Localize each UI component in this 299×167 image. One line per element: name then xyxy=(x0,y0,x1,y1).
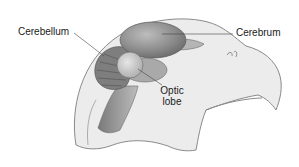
bird-brain-diagram: Cerebellum Cerebrum Optic lobe xyxy=(0,0,299,167)
optic-lobe xyxy=(117,52,143,78)
label-optic-lobe: Optic lobe xyxy=(157,85,187,107)
label-cerebrum: Cerebrum xyxy=(236,27,280,38)
label-optic-lobe-line1: Optic xyxy=(157,85,187,96)
label-cerebellum: Cerebellum xyxy=(18,26,69,37)
leader-cerebellum xyxy=(74,33,104,56)
label-optic-lobe-line2: lobe xyxy=(157,96,187,107)
